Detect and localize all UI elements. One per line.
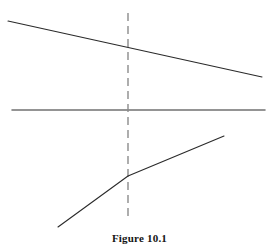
figure-container: Figure 10.1	[0, 0, 279, 251]
figure-drawing	[0, 0, 279, 251]
figure-caption: Figure 10.1	[0, 232, 279, 244]
figure-background	[0, 0, 279, 251]
